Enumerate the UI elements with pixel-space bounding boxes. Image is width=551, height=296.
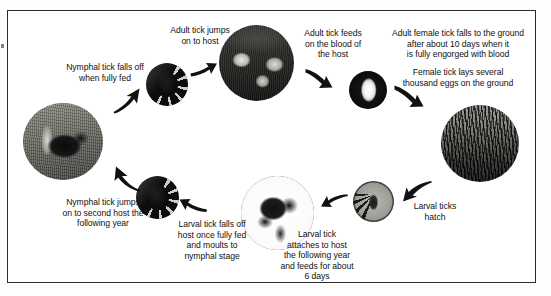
- caption-female-lays-eggs: Female tick lays several thousand eggs o…: [390, 67, 526, 88]
- larval-tick-photo-image: [353, 181, 394, 222]
- arrow-larva-to-rodent: [317, 194, 349, 212]
- page-edge-mark: [1, 44, 4, 48]
- grass-eggs-photo-image: [441, 105, 519, 182]
- caption-nymphal-falls-off: Nymphal tick falls off when fully fed: [46, 62, 164, 83]
- arrow-sheep-to-engorged: [305, 66, 335, 90]
- arrow-adult-tick-to-sheep: [190, 59, 218, 77]
- arrow-nymph-to-dog: [113, 166, 143, 192]
- grass-eggs-photo: [441, 105, 519, 182]
- caption-larval-falls-off: Larval tick falls off host once fully fe…: [160, 219, 264, 261]
- arrow-rodent-to-nymph: [176, 195, 208, 213]
- caption-adult-jumps: Adult tick jumps on to host: [150, 25, 250, 46]
- dog-host-photo-image: [23, 103, 103, 180]
- caption-nymphal-jumps: Nymphal tick jumps on to second host the…: [42, 197, 164, 229]
- caption-larval-attaches: Larval tick attaches to host the followi…: [265, 229, 369, 282]
- diagram-canvas: Nymphal tick falls off when fully fed Ad…: [0, 0, 551, 296]
- engorged-female-tick-photo: [349, 71, 387, 109]
- caption-larval-hatch: Larval ticks hatch: [400, 201, 470, 222]
- caption-adult-feeds: Adult tick feeds on the blood of the hos…: [293, 28, 373, 60]
- engorged-female-tick-image: [349, 71, 387, 109]
- dog-host-photo: [23, 103, 103, 180]
- arrow-dog-to-adult-tick: [112, 88, 142, 114]
- caption-female-falls: Adult female tick falls to the ground af…: [380, 28, 536, 60]
- larval-tick-photo: [353, 181, 394, 222]
- diagram-frame: Nymphal tick falls off when fully fed Ad…: [7, 10, 536, 283]
